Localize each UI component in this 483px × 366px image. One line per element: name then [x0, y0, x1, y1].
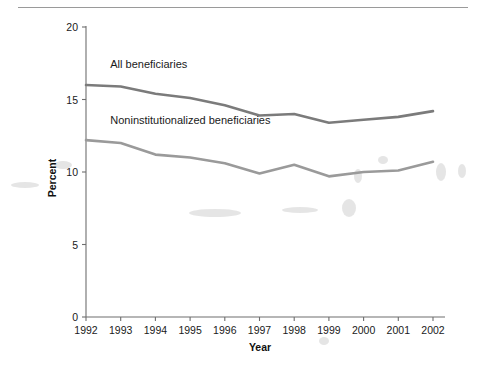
y-tick-label: 20: [66, 21, 78, 33]
x-axis-title: Year: [249, 341, 271, 353]
series-label-noninstitutionalized-beneficiaries: Noninstitutionalized beneficiaries: [110, 114, 271, 126]
x-tick-label: 1998: [283, 324, 307, 336]
x-tick-label: 1999: [317, 324, 341, 336]
x-tick-label: 1997: [248, 324, 272, 336]
x-tick-label: 2001: [387, 324, 411, 336]
line-chart-canvas: 05101520 1992199319941995199619971998199…: [0, 0, 483, 366]
y-tick-label: 10: [66, 166, 78, 178]
x-tick-label: 1996: [213, 324, 237, 336]
chart-figure: 05101520 1992199319941995199619971998199…: [0, 0, 483, 366]
x-axis-ticks: [86, 317, 433, 321]
x-tick-label: 1995: [178, 324, 202, 336]
y-tick-label: 0: [72, 311, 78, 323]
x-axis-tick-labels: 1992199319941995199619971998199920002001…: [74, 324, 445, 336]
y-axis-tick-labels: 05101520: [66, 21, 78, 323]
y-axis-title: Percent: [46, 158, 58, 197]
y-tick-label: 15: [66, 94, 78, 106]
x-tick-label: 1993: [109, 324, 133, 336]
x-tick-label: 1994: [144, 324, 168, 336]
y-axis-ticks: [82, 27, 86, 317]
series-label-all-beneficiaries: All beneficiaries: [110, 58, 188, 70]
x-tick-label: 2002: [421, 324, 445, 336]
y-tick-label: 5: [72, 239, 78, 251]
x-tick-label: 2000: [352, 324, 376, 336]
x-tick-label: 1992: [74, 324, 98, 336]
